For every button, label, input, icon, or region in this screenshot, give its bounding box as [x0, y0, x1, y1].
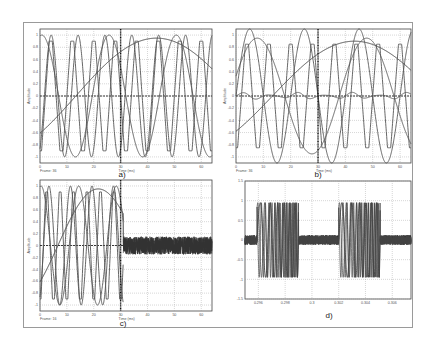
y-tick-label: -0.8: [32, 143, 38, 147]
x-tick-label: 20: [289, 165, 293, 169]
y-tick-label: 0.4: [33, 220, 38, 224]
x-tick-label: 40: [146, 313, 150, 317]
y-tick-label: 1: [241, 199, 243, 203]
x-tick-label: 20: [92, 313, 96, 317]
x-tick-label: 10: [65, 165, 69, 169]
y-tick-label: 0: [232, 94, 234, 98]
x-tick-label: 0.302: [334, 301, 343, 305]
y-tick-label: 1: [232, 33, 234, 37]
y-tick-label: -0.4: [228, 119, 234, 123]
y-tick-label: 0.8: [33, 196, 38, 200]
panel-c: 10.80.60.40.20-0.2-0.4-0.6-0.8-101020304…: [27, 180, 212, 328]
y-tick-label: -1: [35, 303, 38, 307]
y-tick-label: -0.8: [228, 143, 234, 147]
y-tick-label: 0: [241, 238, 243, 242]
y-tick-label: 0.6: [229, 58, 234, 62]
x-tick-label: 50: [172, 165, 176, 169]
x-tick-label: 50: [172, 313, 176, 317]
y-tick-label: -0.4: [32, 119, 38, 123]
y-tick-label: 0.2: [33, 232, 38, 236]
x-tick-label: 0.304: [361, 301, 370, 305]
y-tick-label: -0.2: [228, 106, 234, 110]
x-tick-label: 0.3: [309, 301, 314, 305]
y-tick-label: 0.2: [33, 82, 38, 86]
y-tick-label: 0.6: [33, 208, 38, 212]
panel-caption: c): [120, 319, 127, 328]
y-tick-label: -0.5: [237, 258, 243, 262]
y-tick-label: -1.5: [237, 297, 243, 301]
y-axis: 10.80.60.40.20-0.2-0.4-0.6-0.8-1: [32, 184, 38, 307]
frame-label: Frame: 36: [40, 169, 56, 173]
y-tick-label: 0.4: [229, 70, 234, 74]
x-tick-label: 60: [199, 165, 203, 169]
y-tick-label: -0.8: [32, 291, 38, 295]
y-axis: 10.80.60.40.20-0.2-0.4-0.6-0.8-1: [228, 33, 234, 159]
x-tick-label: 20: [92, 165, 96, 169]
y-tick-label: 0.2: [229, 82, 234, 86]
y-tick-label: 0.5: [238, 219, 243, 223]
figure-canvas: 10.80.60.40.20-0.2-0.4-0.6-0.8-101020304…: [0, 0, 435, 344]
panel-caption: d): [325, 311, 332, 320]
x-axis: 0.2960.2980.30.3020.3040.306: [254, 301, 397, 305]
y-tick-label: 0.8: [33, 45, 38, 49]
y-tick-label: -0.6: [32, 279, 38, 283]
x-tick-label: 0.298: [281, 301, 290, 305]
y-tick-label: 0: [36, 244, 38, 248]
y-tick-label: -0.2: [32, 106, 38, 110]
panel-d: 1.510.50-0.5-1-1.50.2960.2980.30.3020.30…: [237, 179, 411, 320]
panel-b: 10.80.60.40.20-0.2-0.4-0.6-0.8-101020304…: [223, 29, 411, 179]
y-tick-label: -0.4: [32, 268, 38, 272]
x-tick-label: 60: [199, 313, 203, 317]
x-tick-label: 0.306: [388, 301, 397, 305]
x-tick-label: 50: [371, 165, 375, 169]
y-tick-label: -0.6: [32, 131, 38, 135]
y-tick-label: 0.6: [33, 58, 38, 62]
x-tick-label: 10: [65, 313, 69, 317]
panel-caption: b): [314, 170, 321, 179]
y-axis-label: Amplitude: [223, 88, 227, 104]
y-tick-label: 1: [36, 184, 38, 188]
panel-a: 10.80.60.40.20-0.2-0.4-0.6-0.8-101020304…: [27, 29, 212, 179]
y-tick-label: 1.5: [238, 179, 243, 183]
x-tick-label: 60: [398, 165, 402, 169]
x-tick-label: 40: [146, 165, 150, 169]
y-tick-label: -1: [240, 278, 243, 282]
frame-label: Frame: 16: [40, 317, 56, 321]
panel-caption: a): [118, 170, 125, 179]
y-axis-label: Amplitude: [27, 88, 31, 104]
y-tick-label: -1: [231, 155, 234, 159]
y-tick-label: 1: [36, 33, 38, 37]
y-axis: 1.510.50-0.5-1-1.5: [237, 179, 243, 301]
frame-label: Frame: 36: [236, 169, 252, 173]
x-tick-label: 40: [343, 165, 347, 169]
y-axis-label: Amplitude: [27, 238, 31, 254]
y-tick-label: 0.4: [33, 70, 38, 74]
x-tick-label: 0.296: [254, 301, 263, 305]
y-axis: 10.80.60.40.20-0.2-0.4-0.6-0.8-1: [32, 33, 38, 159]
y-tick-label: 0: [36, 94, 38, 98]
y-tick-label: -0.2: [32, 256, 38, 260]
y-tick-label: 0.8: [229, 45, 234, 49]
y-tick-label: -1: [35, 155, 38, 159]
y-tick-label: -0.6: [228, 131, 234, 135]
x-tick-label: 10: [261, 165, 265, 169]
